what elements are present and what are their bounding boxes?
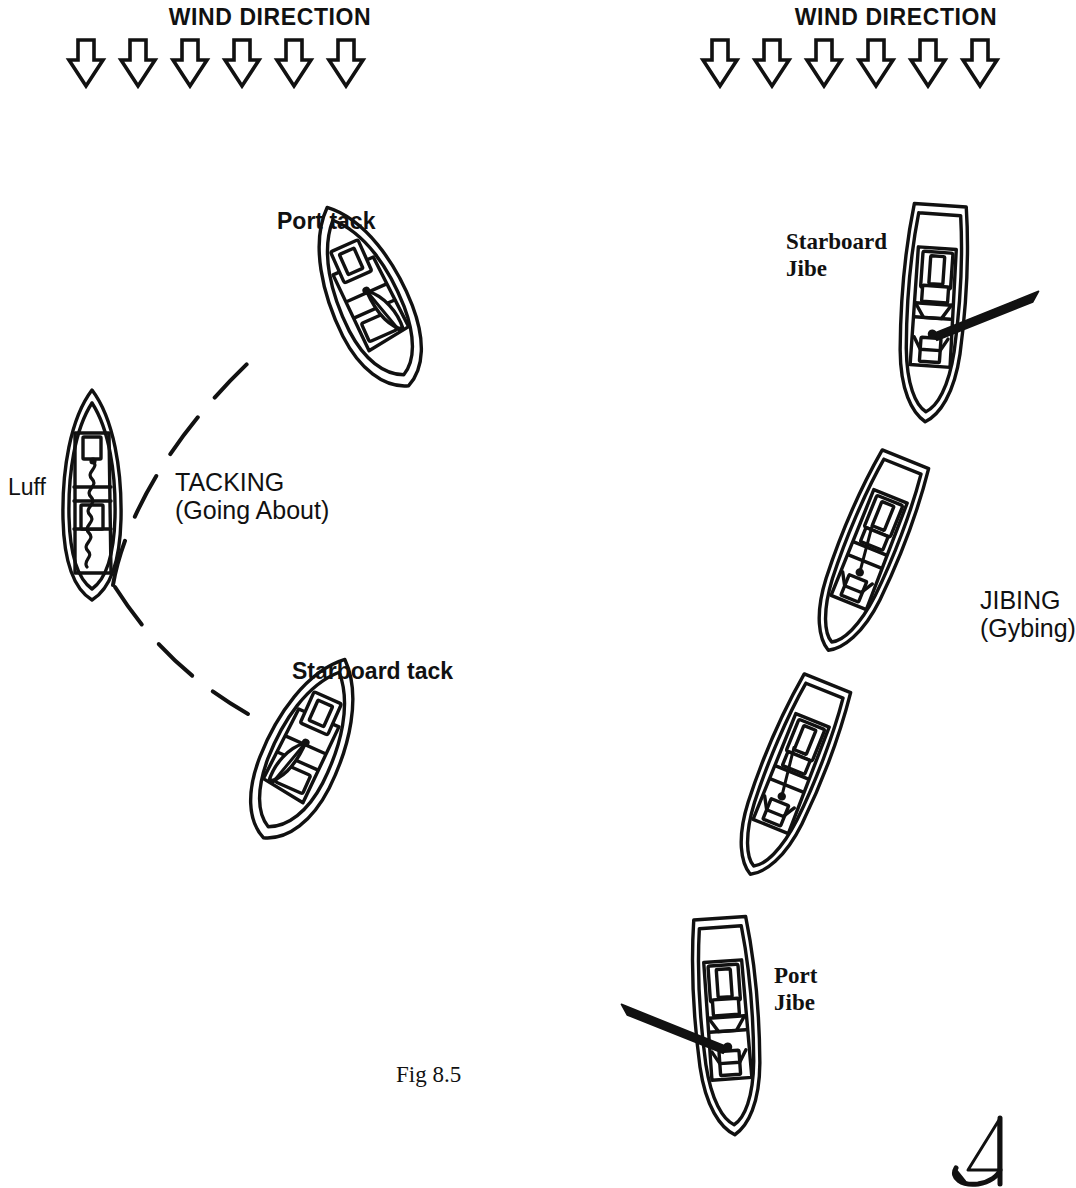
mast <box>89 457 96 464</box>
jibing-diagram <box>600 170 1076 1180</box>
arrow-down-hollow-icon <box>755 40 789 86</box>
label-luff: Luff <box>8 474 46 501</box>
label-starboard-jibe-line1: Starboard <box>786 228 887 255</box>
label-starboard-tack: Starboard tack <box>292 658 453 684</box>
tacking-paths <box>113 350 262 714</box>
hatch <box>716 969 732 998</box>
boat-jibe-mid-upper <box>800 448 934 662</box>
hatch <box>929 256 945 285</box>
boat-jibe-mid-lower <box>722 672 856 886</box>
arrow-down-hollow-icon <box>703 40 737 86</box>
label-port-tack: Port tack <box>277 208 375 234</box>
jibing-title-block: JIBING (Gybing) <box>980 586 1076 642</box>
label-port-jibe: Port Jibe <box>774 962 817 1016</box>
arrow-down-hollow-icon <box>69 40 103 86</box>
hull-outline <box>800 448 934 662</box>
boat-starboard-jibe <box>894 203 1044 429</box>
tacking-diagram <box>0 150 540 950</box>
corner-sketch <box>952 1112 1076 1188</box>
wind-direction-label-left: WIND DIRECTION <box>130 4 410 31</box>
label-starboard-jibe: Starboard Jibe <box>786 228 887 282</box>
wind-direction-label-right: WIND DIRECTION <box>756 4 1036 31</box>
companionway <box>712 998 739 1016</box>
wind-arrows-left <box>70 38 400 94</box>
tacking-subtitle: (Going About) <box>175 496 329 524</box>
arrow-down-hollow-icon <box>859 40 893 86</box>
arrow-down-hollow-icon <box>807 40 841 86</box>
label-port-jibe-line1: Port <box>774 962 817 989</box>
arrow-down-hollow-icon <box>329 40 363 86</box>
label-starboard-jibe-line2: Jibe <box>786 255 887 282</box>
arrow-down-hollow-icon <box>173 40 207 86</box>
arrow-down-hollow-icon <box>963 40 997 86</box>
arrow-down-hollow-icon <box>121 40 155 86</box>
arrow-down-hollow-icon <box>225 40 259 86</box>
hatch <box>83 437 101 459</box>
figure-caption: Fig 8.5 <box>396 1062 461 1088</box>
path-to-starboard-tack <box>115 587 248 714</box>
jibing-title: JIBING <box>980 586 1076 614</box>
jibing-subtitle: (Gybing) <box>980 614 1076 642</box>
label-port-jibe-line2: Jibe <box>774 989 817 1016</box>
boat-luff <box>63 390 121 600</box>
hull-outline <box>722 672 856 886</box>
companionway <box>922 285 949 303</box>
sketch-sail <box>968 1120 999 1170</box>
tacking-title: TACKING <box>175 468 329 496</box>
figure-page: WIND DIRECTION <box>0 0 1076 1188</box>
arrow-down-hollow-icon <box>911 40 945 86</box>
tacking-title-block: TACKING (Going About) <box>175 468 329 524</box>
wind-arrows-right <box>704 38 1034 94</box>
arrow-down-hollow-icon <box>277 40 311 86</box>
boat-port-jibe <box>616 916 766 1142</box>
